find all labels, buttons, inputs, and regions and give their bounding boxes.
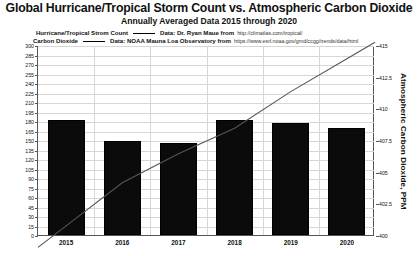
y-axis-tick-left: 210: [6, 100, 34, 106]
y-axis-tick-left: 75: [6, 186, 34, 192]
y-axis-tick-left: 300: [6, 43, 34, 49]
chart-subtitle: Annually Averaged Data 2015 through 2020: [0, 16, 418, 26]
y-axis-tick-left: 90: [6, 176, 34, 182]
y-tick-mark-right: [376, 173, 379, 174]
y-tick-mark-right: [376, 78, 379, 79]
right-axis-title-text: Atmospheric Carbon Dioxide, PPM: [399, 73, 408, 210]
y-axis-tick-left: 165: [6, 129, 34, 135]
x-axis-tick-2020: 2020: [340, 239, 354, 246]
y-tick-mark-left: [35, 236, 38, 237]
x-axis-tick-2018: 2018: [227, 239, 241, 246]
plot-area: 3002852702552402252101951801651501351201…: [37, 46, 374, 236]
y-axis-tick-left: 30: [6, 214, 34, 220]
y-axis-tick-left: 285: [6, 53, 34, 59]
legend-item-co2: Carbon Dioxide Data: NOAA Mauna Loa Obse…: [20, 37, 410, 45]
chart-legend: Hurricane/Tropical Strom Count Data: Dr.…: [20, 29, 410, 45]
y-axis-tick-left: 15: [6, 224, 34, 230]
y-axis-tick-left: 270: [6, 62, 34, 68]
co2-line-series: [38, 46, 375, 236]
legend-url-co2[interactable]: https://www.esrl.noaa.gov/gmd/ccgg/trend…: [234, 37, 358, 45]
y-axis-tick-left: 150: [6, 138, 34, 144]
legend-label-hurricane: Hurricane/Tropical Strom Count: [20, 29, 128, 37]
y-axis-tick-left: 195: [6, 110, 34, 116]
y-axis-tick-left: 225: [6, 91, 34, 97]
legend-swatch-line-hurricane: [133, 33, 155, 34]
y-tick-mark-right: [376, 109, 379, 110]
x-axis-tick-2015: 2015: [59, 239, 73, 246]
co2-trend-line: [38, 42, 375, 247]
page-title: Global Hurricane/Tropical Storm Count vs…: [0, 1, 418, 15]
y-axis-tick-left: 45: [6, 205, 34, 211]
y-axis-tick-left: 240: [6, 81, 34, 87]
legend-source-hurricane: Data: Dr. Ryan Maue from: [160, 29, 234, 37]
legend-item-hurricane: Hurricane/Tropical Strom Count Data: Dr.…: [20, 29, 410, 37]
right-axis-title: Atmospheric Carbon Dioxide, PPM: [396, 46, 410, 236]
legend-source-co2: Data: NOAA Mauna Loa Observatory from: [110, 37, 231, 45]
legend-url-hurricane[interactable]: http://climatlas.com/tropical/: [237, 29, 302, 37]
y-tick-mark-right: [376, 236, 379, 237]
y-axis-tick-left: 135: [6, 148, 34, 154]
x-axis-tick-2016: 2016: [115, 239, 129, 246]
x-axis-tick-2017: 2017: [171, 239, 185, 246]
y-tick-mark-right: [376, 204, 379, 205]
y-axis-tick-left: 255: [6, 72, 34, 78]
y-tick-mark-right: [376, 141, 379, 142]
y-axis-tick-left: 60: [6, 195, 34, 201]
chart-root: Global Hurricane/Tropical Storm Count vs…: [0, 0, 418, 256]
legend-swatch-line-co2: [83, 41, 105, 42]
y-tick-mark-right: [376, 46, 379, 47]
y-axis-tick-left: 0: [6, 233, 34, 239]
x-axis-tick-2019: 2019: [284, 239, 298, 246]
y-axis-tick-left: 180: [6, 119, 34, 125]
y-axis-tick-left: 105: [6, 167, 34, 173]
y-axis-tick-left: 120: [6, 157, 34, 163]
